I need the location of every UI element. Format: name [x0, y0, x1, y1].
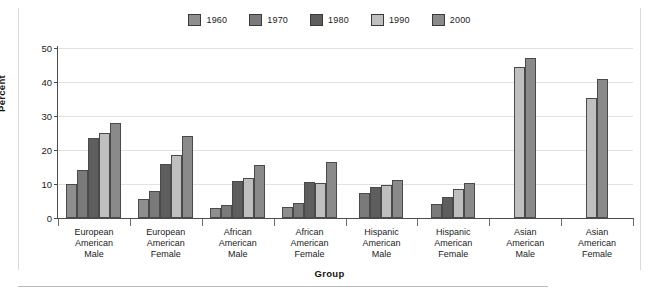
x-category-label-line: American [489, 238, 561, 249]
bar-group [58, 48, 130, 218]
x-category-label-line: American [130, 238, 202, 249]
x-category-label-line: European [130, 227, 202, 238]
bar-group [346, 48, 418, 218]
y-axis-title: Percent [0, 75, 7, 112]
bar[interactable] [431, 204, 442, 218]
x-category-label-line: Asian [489, 227, 561, 238]
bar[interactable] [392, 180, 403, 218]
legend-swatch-icon [371, 14, 384, 26]
x-category-label-line: Female [274, 249, 346, 260]
bar[interactable] [370, 187, 381, 218]
chart-legend: 19601970198019902000 [0, 14, 659, 26]
x-category-label: AfricanAmericanFemale [274, 227, 346, 260]
x-axis-separator [633, 219, 634, 226]
bar[interactable] [586, 98, 597, 218]
bar[interactable] [315, 183, 326, 218]
bar-group [274, 48, 346, 218]
bar[interactable] [514, 67, 525, 218]
bar[interactable] [171, 155, 182, 218]
bar[interactable] [149, 191, 160, 218]
right-edge-rule [640, 8, 641, 270]
bar[interactable] [254, 165, 265, 218]
legend-swatch-icon [432, 14, 445, 26]
x-category-label: HispanicAmericanFemale [417, 227, 489, 260]
footer-rule [18, 286, 548, 287]
x-axis-separator [417, 219, 418, 226]
legend-label: 1960 [206, 16, 227, 25]
bar-group [202, 48, 274, 218]
y-tick-label: 10 [30, 179, 52, 190]
bar[interactable] [66, 184, 77, 218]
left-edge-rule [18, 8, 19, 270]
x-axis-separator [274, 219, 275, 226]
bar[interactable] [243, 178, 254, 218]
chart-figure: 19601970198019902000 Percent Group 01020… [0, 0, 659, 296]
y-tick-label: 20 [30, 145, 52, 156]
x-category-label: AsianAmericanFemale [561, 227, 633, 260]
y-tick-label: 0 [30, 213, 52, 224]
bar[interactable] [160, 164, 171, 218]
x-category-label-line: Female [561, 249, 633, 260]
bar[interactable] [221, 205, 232, 218]
x-category-label-line: Male [202, 249, 274, 260]
x-axis-separator [489, 219, 490, 226]
bar-group [130, 48, 202, 218]
legend-label: 1990 [389, 16, 410, 25]
bar[interactable] [182, 136, 193, 218]
bar[interactable] [138, 199, 149, 218]
bar[interactable] [597, 79, 608, 218]
legend-item-1960[interactable]: 1960 [188, 14, 227, 26]
x-category-label-line: African [274, 227, 346, 238]
x-category-label-line: African [202, 227, 274, 238]
x-category-label-line: Male [346, 249, 418, 260]
x-category-label-line: American [274, 238, 346, 249]
x-category-label-line: European [58, 227, 130, 238]
bar[interactable] [453, 189, 464, 218]
legend-item-1990[interactable]: 1990 [371, 14, 410, 26]
x-axis-separator [130, 219, 131, 226]
bar[interactable] [232, 181, 243, 218]
bar[interactable] [210, 208, 221, 218]
bar-group [417, 48, 489, 218]
legend-item-2000[interactable]: 2000 [432, 14, 471, 26]
bar[interactable] [464, 183, 475, 218]
bar-group [561, 48, 633, 218]
bar[interactable] [326, 162, 337, 218]
bar[interactable] [525, 58, 536, 218]
bar[interactable] [359, 193, 370, 219]
y-tick-label: 40 [30, 77, 52, 88]
x-axis-separator [561, 219, 562, 226]
legend-label: 1970 [267, 16, 288, 25]
x-category-label-line: Female [417, 249, 489, 260]
legend-item-1970[interactable]: 1970 [249, 14, 288, 26]
x-category-label-line: Hispanic [417, 227, 489, 238]
x-category-label-line: Male [58, 249, 130, 260]
y-tick-label: 50 [30, 43, 52, 54]
x-axis-separator [202, 219, 203, 226]
bar[interactable] [304, 182, 315, 218]
bar[interactable] [293, 203, 304, 218]
x-axis-separator [346, 219, 347, 226]
x-axis-title: Group [0, 268, 659, 279]
x-category-label-line: American [58, 238, 130, 249]
y-tick-label: 30 [30, 111, 52, 122]
legend-label: 1980 [328, 16, 349, 25]
x-category-label-line: American [202, 238, 274, 249]
bar[interactable] [381, 185, 392, 218]
legend-swatch-icon [310, 14, 323, 26]
x-category-label-line: American [346, 238, 418, 249]
bar-group [489, 48, 561, 218]
x-category-label-line: Hispanic [346, 227, 418, 238]
bar[interactable] [99, 133, 110, 218]
plot-area [58, 48, 633, 218]
legend-item-1980[interactable]: 1980 [310, 14, 349, 26]
legend-swatch-icon [249, 14, 262, 26]
bar[interactable] [88, 138, 99, 218]
bar[interactable] [282, 207, 293, 218]
x-category-label: EuropeanAmericanMale [58, 227, 130, 260]
bar[interactable] [77, 170, 88, 218]
legend-label: 2000 [450, 16, 471, 25]
bar[interactable] [442, 197, 453, 218]
bar[interactable] [110, 123, 121, 218]
x-category-label: AfricanAmericanMale [202, 227, 274, 260]
